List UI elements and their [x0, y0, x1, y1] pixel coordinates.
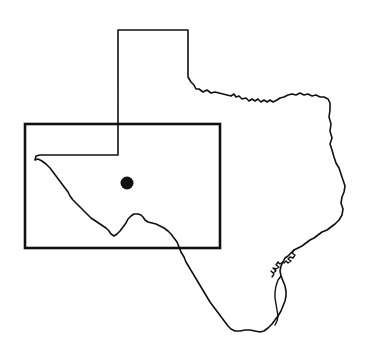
site-location-dot-icon[interactable]	[121, 177, 134, 190]
map-canvas	[0, 0, 369, 362]
texas-map-figure: Texas state outline map Outline map of t…	[0, 0, 369, 362]
